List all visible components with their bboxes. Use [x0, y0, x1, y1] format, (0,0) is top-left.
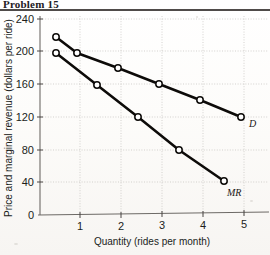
mr-marker: [221, 178, 227, 184]
mr-marker: [176, 147, 182, 153]
x-tick-label-1: 1: [77, 220, 83, 232]
demand-marker: [156, 81, 162, 87]
series-demand: [53, 34, 244, 120]
series-marginal-revenue: [53, 50, 227, 184]
y-tick-label-120: 120: [16, 111, 34, 123]
y-tick-label-240: 240: [16, 13, 34, 25]
gridlines-vertical: [80, 16, 244, 215]
marginal-revenue-curve-label: MR: [226, 187, 241, 198]
x-tick-label-2: 2: [118, 220, 124, 232]
demand-curve-label: D: [248, 118, 257, 129]
scan-speck: [14, 243, 18, 245]
x-tick-label-4: 4: [200, 219, 206, 231]
x-tick-label-5: 5: [241, 218, 247, 230]
gridlines-horizontal: [40, 19, 268, 182]
y-axis-title: Price and marginal revenue (dollars per …: [3, 19, 14, 217]
y-tick-label-40: 40: [22, 176, 34, 188]
scan-speck: [196, 16, 198, 18]
chart-svg: 240 200 160 120 80 40 0 1 2 3 4 5 Quanti…: [0, 10, 270, 255]
figure-page: Problem 15: [0, 0, 270, 255]
y-tick-label-160: 160: [16, 78, 34, 90]
demand-line: [56, 37, 241, 117]
demand-marker: [238, 114, 244, 120]
demand-marker: [53, 34, 59, 40]
chart-plot-area: 240 200 160 120 80 40 0 1 2 3 4 5 Quanti…: [0, 10, 270, 255]
y-tick-label-80: 80: [22, 144, 34, 156]
y-tick-label-200: 200: [16, 45, 34, 57]
scan-speck: [250, 200, 253, 202]
mr-marker: [53, 50, 59, 56]
mr-marker: [135, 114, 141, 120]
x-axis-title: Quantity (rides per month): [94, 236, 210, 247]
y-tick-label-0: 0: [28, 209, 34, 221]
demand-marker: [197, 97, 203, 103]
x-tick-label-3: 3: [159, 219, 165, 231]
demand-marker: [74, 50, 80, 56]
demand-marker: [115, 65, 121, 71]
mr-marker: [94, 82, 100, 88]
